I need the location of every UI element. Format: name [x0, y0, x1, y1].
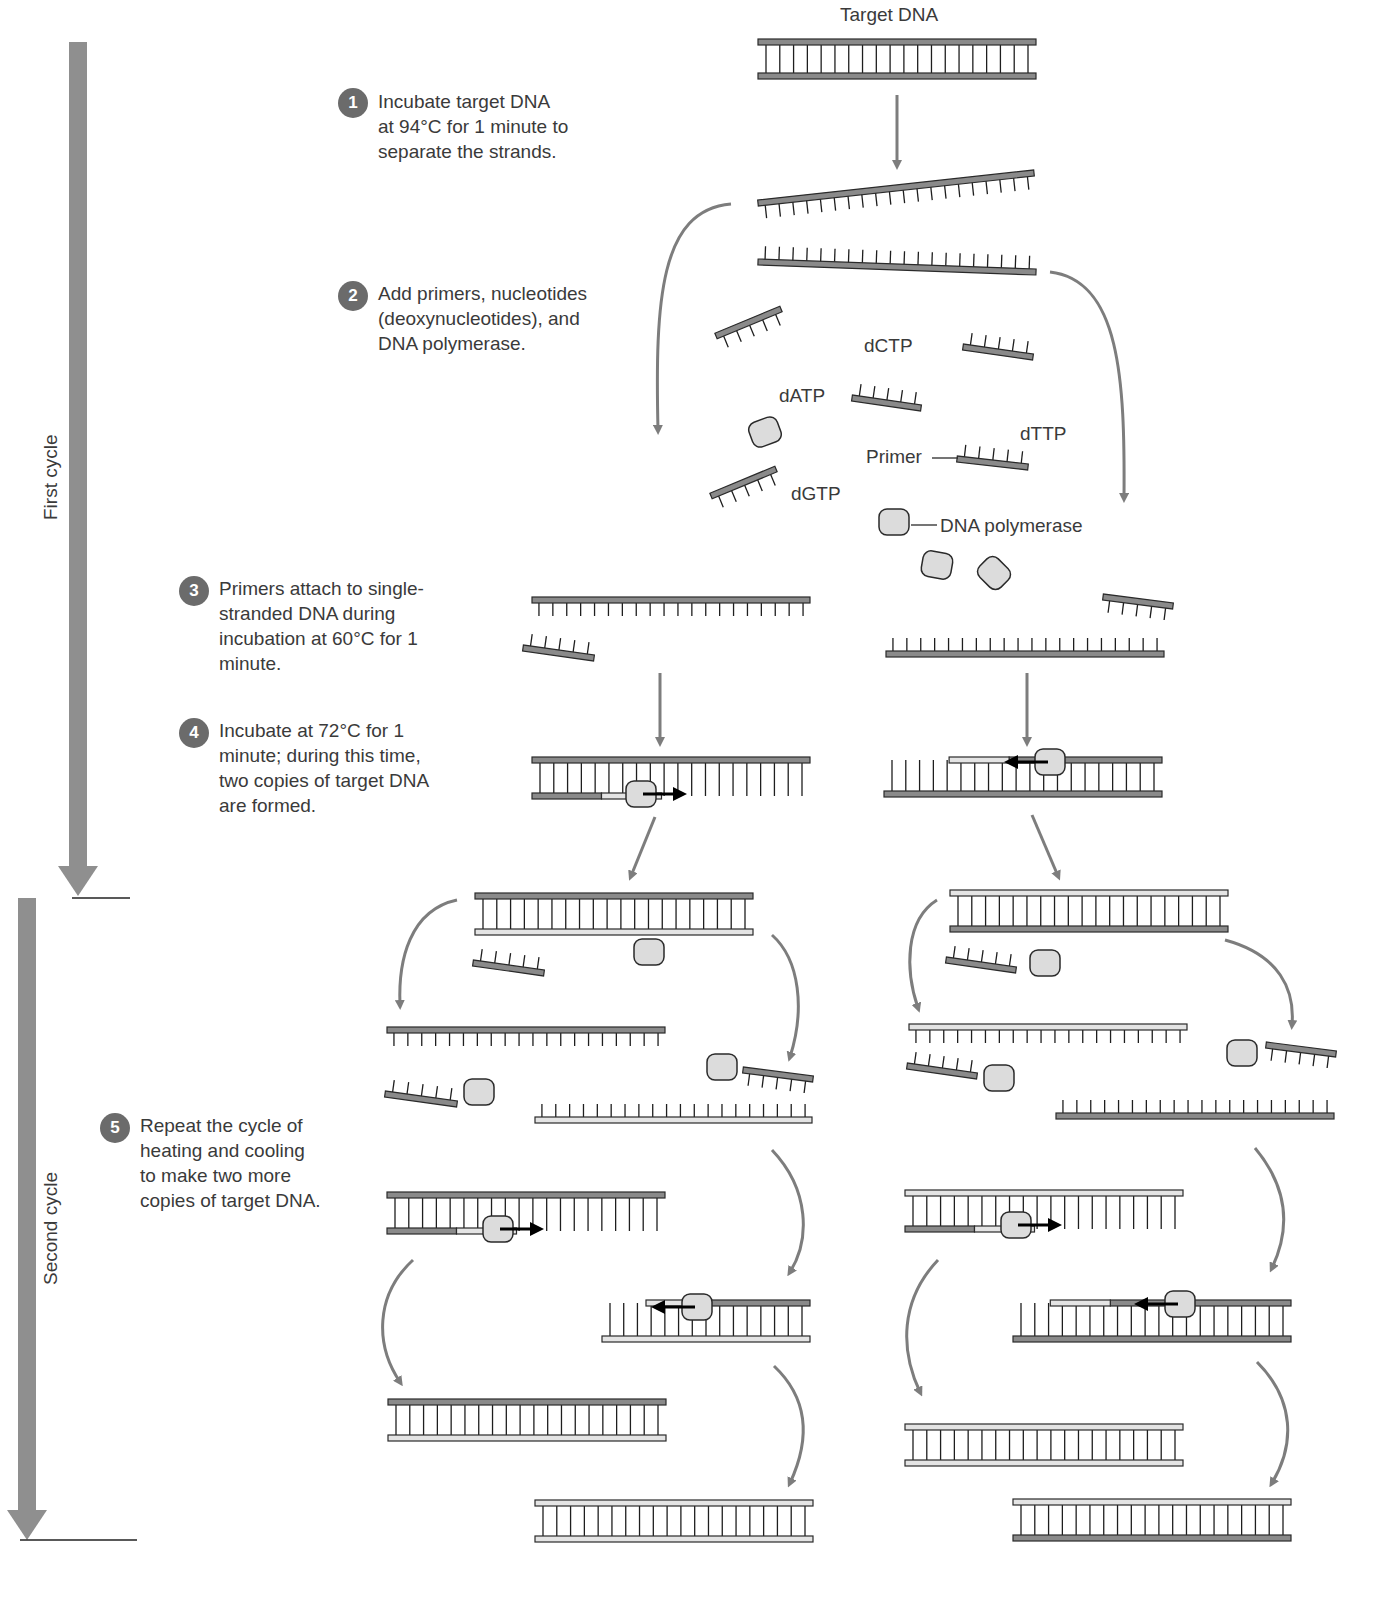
step-badge: 3: [179, 576, 209, 606]
dna-ladder-c2-right-top: [950, 890, 1228, 932]
bottom-strand: [1013, 1336, 1291, 1342]
second-cycle-label: Second cycle: [40, 1172, 62, 1285]
dna-polymerase-icon: [634, 939, 664, 965]
step-text: Incubate target DNA at 94°C for 1 minute…: [378, 89, 568, 164]
target-dna-title: Target DNA: [840, 4, 938, 26]
step-badge: 4: [179, 718, 209, 748]
primer-label: Primer: [866, 446, 922, 468]
curved-arrow-icon: [772, 1150, 803, 1272]
step-2: 2 Add primers, nucleotides (deoxynucleot…: [338, 281, 587, 356]
top-strand: [758, 39, 1036, 45]
first-cycle-bar: [58, 42, 130, 898]
cycle-bars: [7, 42, 137, 1540]
primer: [743, 1067, 814, 1093]
single-strand-c1-left-template: [532, 597, 810, 616]
dna-polymerase-icon: [1030, 950, 1060, 976]
first-cycle-label: First cycle: [40, 435, 62, 521]
bottom-strand: [1013, 1535, 1291, 1541]
single-strand-c2-ll-template: [387, 1027, 665, 1046]
dctp-label: dCTP: [864, 335, 913, 357]
datp-label: dATP: [779, 385, 825, 407]
cycle-bar-shaft: [69, 42, 87, 868]
active-polymerase-group: [483, 749, 1195, 1320]
arrow-right-icon: [673, 787, 687, 801]
primer-segment: [532, 793, 602, 799]
top-strand: [905, 1424, 1183, 1430]
step-badge: 1: [338, 88, 368, 118]
top-strand: [475, 893, 753, 899]
primer-backbone: [743, 1067, 814, 1082]
primers-group: [385, 306, 1337, 1107]
primer-segment: [387, 1228, 457, 1234]
primer: [473, 949, 545, 976]
curved-arrow-icon: [383, 1260, 413, 1382]
arrow-right-icon: [530, 1222, 544, 1236]
primer: [523, 634, 595, 661]
new-strand-segment: [949, 757, 1009, 763]
bottom-strand: [388, 1435, 666, 1441]
dna-ladder-c2-rr-ext: [1013, 1300, 1291, 1342]
step-text: Incubate at 72°C for 1 minute; during th…: [219, 718, 429, 818]
top-strand: [387, 1192, 665, 1198]
primer-backbone: [1103, 594, 1174, 609]
dna-ladder-c2-left-top: [475, 893, 753, 935]
step-text: Add primers, nucleotides (deoxynucleotid…: [378, 281, 587, 356]
dna-polymerase-icon: [746, 415, 783, 450]
curved-arrow-icon: [1255, 1148, 1284, 1268]
primer-segment: [905, 1226, 975, 1232]
curved-arrow-icon: [772, 935, 798, 1057]
primer-backbone: [385, 1091, 458, 1107]
primer: [1266, 1042, 1337, 1068]
dna-polymerase-label: DNA polymerase: [940, 515, 1083, 537]
dna-ladder-final-2: [535, 1500, 813, 1542]
dna-polymerase-icon: [879, 509, 909, 535]
dgtp-label: dGTP: [791, 483, 841, 505]
primer: [710, 466, 777, 507]
step-3: 3 Primers attach to single- stranded DNA…: [179, 576, 424, 676]
single-strand-c2-rl-template: [909, 1024, 1187, 1043]
step-4: 4 Incubate at 72°C for 1 minute; during …: [179, 718, 429, 818]
curved-arrow-icon: [657, 204, 731, 430]
strand-backbone: [909, 1024, 1187, 1030]
cycle-arrowhead-icon: [7, 1510, 47, 1540]
strand-backbone: [532, 597, 810, 603]
step-badge: 2: [338, 281, 368, 311]
strand-backbone: [886, 651, 1164, 657]
step-text: Repeat the cycle of heating and cooling …: [140, 1113, 321, 1213]
top-strand: [532, 757, 810, 763]
bottom-strand: [602, 1336, 810, 1342]
top-strand: [535, 1500, 813, 1506]
bottom-strand: [950, 926, 1228, 932]
bottom-strand: [758, 73, 1036, 79]
dna-polymerase-icon: [707, 1054, 737, 1080]
extending-polymerase: [651, 1294, 712, 1320]
curved-arrow-icon: [774, 1366, 803, 1483]
curved-arrow-icon: [400, 900, 457, 1005]
dna-polymerase-icon: [464, 1079, 494, 1105]
down-arrow-icon: [631, 817, 655, 876]
arrow-right-icon: [1048, 1218, 1062, 1232]
primer: [946, 946, 1017, 973]
dna-ladder-target-dna: [758, 39, 1036, 79]
curved-arrow-icon: [1050, 272, 1124, 498]
strand-backbone: [758, 170, 1035, 206]
single-strand-c2-lr-template: [535, 1104, 812, 1123]
step-badge: 5: [100, 1113, 130, 1143]
curved-arrow-icon: [1257, 1362, 1288, 1483]
primer: [963, 333, 1034, 360]
primer: [1103, 594, 1174, 620]
new-strand-segment: [1050, 1300, 1110, 1306]
strand-backbone: [535, 1117, 812, 1123]
dna-polymerase-icon: [974, 553, 1014, 593]
extending-polymerase: [1134, 1291, 1195, 1317]
primer: [715, 306, 782, 347]
dna-polymerase-icon: [984, 1065, 1014, 1091]
second-cycle-bar: [7, 898, 137, 1540]
arrow-left-icon: [1134, 1297, 1148, 1311]
primer-backbone: [852, 395, 922, 411]
primer-backbone: [946, 957, 1017, 973]
primer-backbone: [963, 344, 1034, 360]
single-strand-c2-rr-template: [1056, 1100, 1334, 1119]
dttp-label: dTTP: [1020, 423, 1066, 445]
cycle-bar-shaft: [18, 898, 36, 1512]
